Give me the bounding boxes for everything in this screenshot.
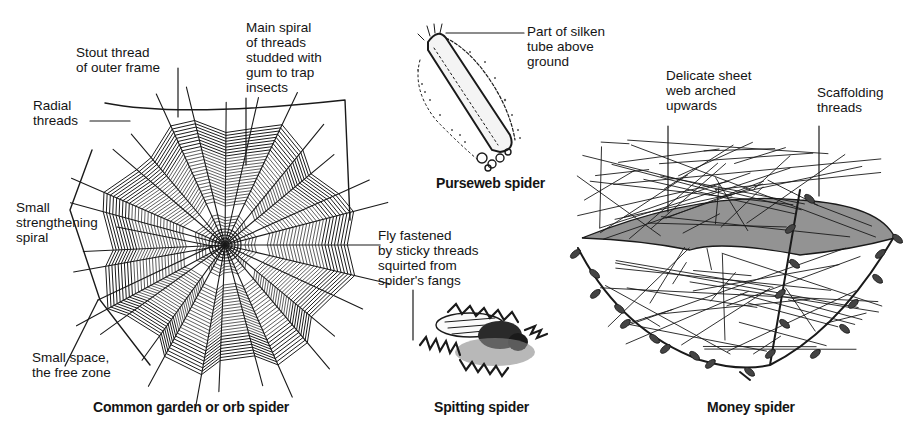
label-delicate-sheet: Delicate sheet web arched upwards — [666, 68, 752, 113]
label-radial-threads: Radial threads — [33, 98, 78, 128]
label-scaffolding: Scaffolding threads — [817, 85, 884, 115]
money-spider-web-illustration — [569, 140, 904, 380]
spitting-spider-fly-illustration — [413, 290, 547, 376]
caption-spitting-spider: Spitting spider — [434, 399, 529, 415]
label-main-spiral: Main spiral of threads studded with gum … — [246, 20, 322, 95]
orb-web-illustration — [70, 87, 389, 409]
caption-purseweb-spider: Purseweb spider — [436, 175, 545, 191]
label-strengthening-spiral: Small strengthening spiral — [16, 200, 98, 245]
label-free-zone: Small space, the free zone — [32, 350, 111, 380]
label-fly-fastened: Fly fastened by sticky threads squirted … — [378, 228, 479, 288]
caption-money-spider: Money spider — [707, 399, 795, 415]
label-stout-thread: Stout thread of outer frame — [76, 45, 160, 75]
label-silken-tube: Part of silken tube above ground — [527, 24, 605, 69]
caption-orb-spider: Common garden or orb spider — [93, 399, 289, 415]
purseweb-tube-illustration — [417, 24, 524, 171]
